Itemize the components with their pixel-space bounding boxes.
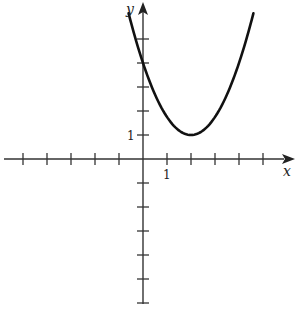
x-axis-label: x [283,163,291,179]
parabola-curve [129,13,254,135]
x-unit-label: 1 [163,168,171,182]
y-axis-label: y [125,1,135,17]
y-unit-label: 1 [127,129,135,143]
coordinate-plane: y x 1 1 [0,0,301,311]
